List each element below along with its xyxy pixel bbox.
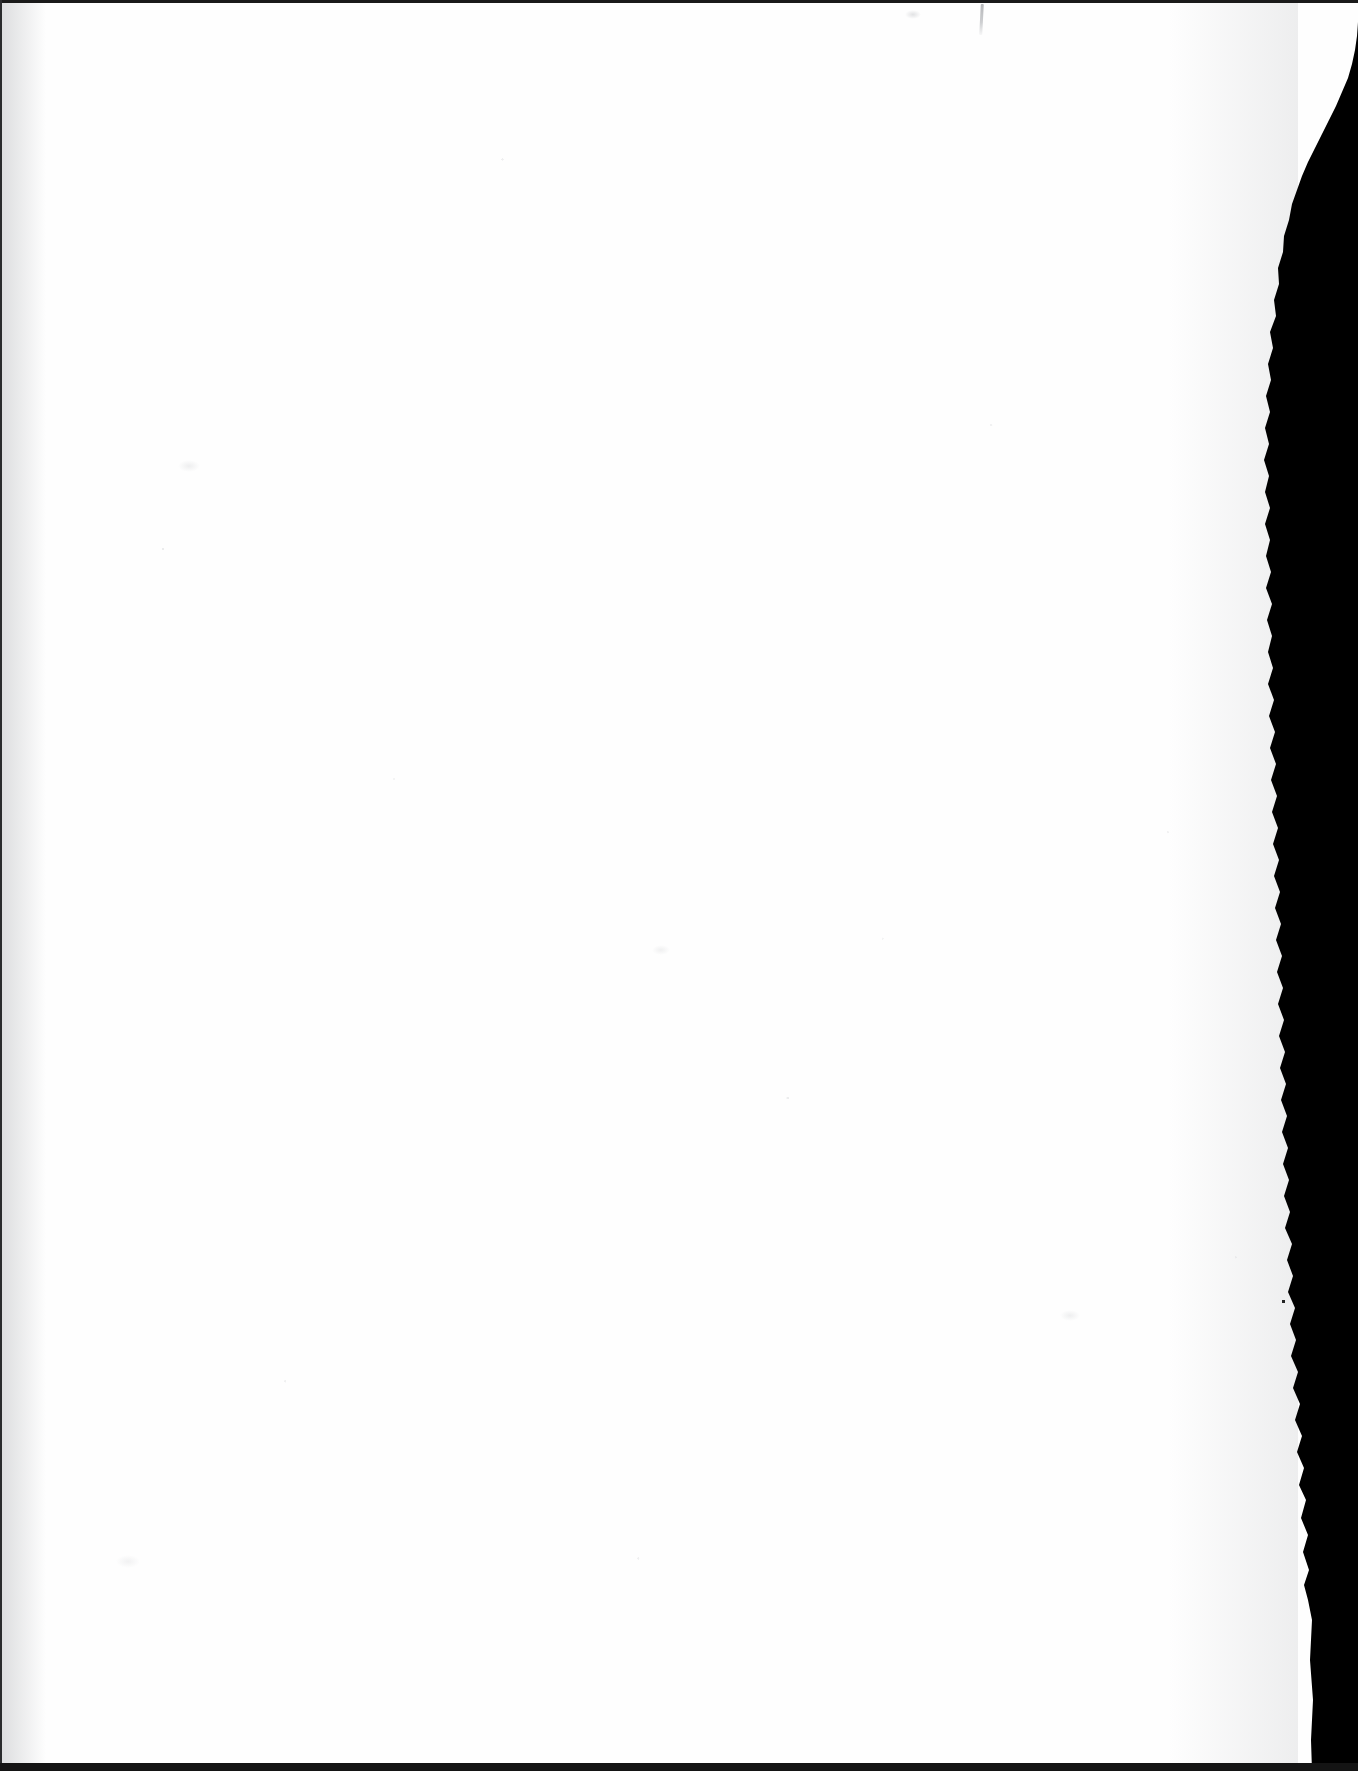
paper-smudge [1060,1310,1080,1321]
paper-smudge [178,460,200,472]
bottom-scan-line [0,1763,1358,1771]
paper-smudge [116,1555,140,1568]
faint-pencil-stroke-icon [979,4,984,35]
right-edge-shadow [1168,0,1298,1771]
paper-surface [0,0,1358,1771]
top-scan-line [0,0,1358,3]
gutter-shadow [0,0,46,1771]
paper-smudge [652,945,670,955]
scanned-page: The public debt and the revenue [0,0,1358,1771]
torn-right-edge [1238,0,1358,1771]
paper-smudge [905,10,921,19]
left-scan-line [0,0,2,1771]
